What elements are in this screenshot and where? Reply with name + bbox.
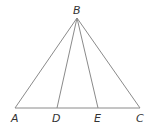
segment-bc [77, 18, 140, 108]
segment-ab [15, 18, 77, 108]
label-e: E [94, 112, 101, 125]
label-c: C [136, 112, 144, 125]
label-d: D [52, 112, 60, 125]
label-a: A [10, 112, 19, 125]
segment-be [77, 18, 98, 108]
label-b: B [73, 4, 81, 17]
segment-bd [57, 18, 77, 108]
triangle-diagram: B A D E C [0, 0, 154, 127]
